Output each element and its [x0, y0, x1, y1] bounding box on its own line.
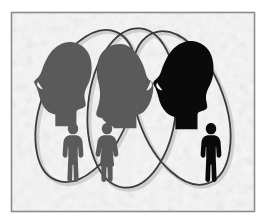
framed-picture [11, 12, 255, 212]
head-silhouette-group [34, 41, 213, 129]
illustration-canvas: Three overlapping groups Venn illustrati… [0, 0, 266, 224]
illustration-svg [0, 0, 266, 224]
